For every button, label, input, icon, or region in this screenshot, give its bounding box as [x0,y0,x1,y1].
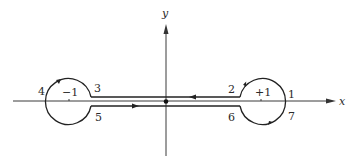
x-axis-label: x [339,95,346,108]
x-axis-arrow-icon [326,99,336,104]
arrow-right-icon [132,104,139,109]
point-label-7: 7 [288,110,295,123]
y-axis-label: y [161,7,169,20]
pole-label-minus-one: −1 [62,86,78,99]
point-label-4: 4 [38,85,45,98]
origin-point [164,99,169,104]
point-label-2: 2 [228,83,235,96]
point-label-6: 6 [228,111,235,124]
point-label-1: 1 [288,88,295,101]
point-label-3: 3 [94,82,101,95]
y-axis-arrow-icon [164,24,169,34]
contour-diagram: x y −1 +1 1 2 3 4 5 6 7 [0,0,357,166]
arrow-left-icon [189,95,196,100]
point-label-5: 5 [95,111,102,124]
pole-label-plus-one: +1 [255,86,271,99]
